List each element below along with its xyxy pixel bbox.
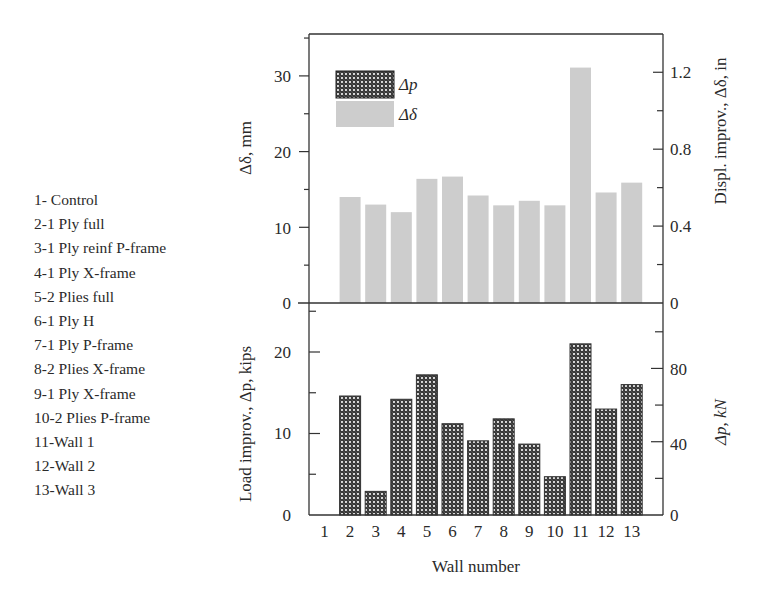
bottom-right-tick: 80 [670, 360, 687, 379]
load-bar [596, 409, 617, 515]
legend-label-load: Δp [398, 75, 417, 94]
x-tick-label: 1 [320, 522, 329, 541]
load-bar [519, 444, 540, 515]
bottom-panel-bars [340, 344, 643, 515]
bottom-right-tick: 0 [670, 506, 679, 525]
x-tick-label: 12 [598, 522, 615, 541]
chart-figure: 30 20 10 0 1.2 0.8 0.4 0 20 10 0 80 40 0… [0, 0, 763, 598]
displacement-bar [621, 183, 642, 303]
bottom-left-tick: 20 [274, 343, 291, 362]
x-tick-label: 11 [572, 522, 588, 541]
displacement-bar [544, 205, 565, 303]
x-tick-label: 7 [474, 522, 483, 541]
bottom-left-tick: 10 [274, 424, 291, 443]
x-tick-labels: 12345678910111213 [320, 522, 640, 541]
load-bar [468, 441, 489, 515]
displacement-bar [519, 201, 540, 303]
load-bar [391, 399, 412, 515]
top-left-tick: 0 [283, 294, 292, 313]
load-bar [442, 424, 463, 515]
top-right-tick: 0.4 [670, 217, 692, 236]
displacement-bar [493, 205, 514, 303]
load-bar [416, 375, 437, 515]
displacement-bar [365, 205, 386, 303]
top-right-tick: 0.8 [670, 140, 691, 159]
displacement-bar [468, 196, 489, 303]
displacement-bar [340, 197, 361, 303]
x-tick-label: 8 [499, 522, 508, 541]
x-tick-label: 3 [371, 522, 380, 541]
displacement-bar [391, 212, 412, 303]
bottom-left-tick: 0 [283, 506, 292, 525]
top-left-tick: 20 [274, 143, 291, 162]
load-bar [340, 396, 361, 515]
top-right-axis-title: Displ. improv., Δδ, in [711, 57, 730, 204]
x-tick-label: 10 [546, 522, 563, 541]
x-tick-label: 6 [448, 522, 457, 541]
load-bar [365, 491, 386, 515]
legend-swatch-load [336, 71, 394, 98]
displacement-bar [442, 177, 463, 303]
top-right-tick: 0 [670, 294, 679, 313]
legend-swatch-displacement [336, 101, 394, 127]
top-left-tick: 10 [274, 219, 291, 238]
top-left-axis-title: Δδ, mm [236, 121, 255, 175]
displacement-bar [570, 68, 591, 303]
legend-label-displacement: Δδ [398, 105, 418, 124]
load-bar [621, 385, 642, 515]
load-bar [493, 419, 514, 515]
load-bar [570, 344, 591, 515]
bottom-right-axis-title: Δp, kN [711, 397, 730, 446]
chart-legend: Δp Δδ [336, 71, 418, 127]
x-tick-label: 4 [397, 522, 406, 541]
displacement-bar [596, 192, 617, 303]
top-right-tick: 1.2 [670, 63, 691, 82]
bottom-left-axis-title: Load improv., Δp, kips [236, 346, 255, 502]
x-tick-label: 13 [623, 522, 640, 541]
x-axis-title: Wall number [432, 557, 520, 576]
top-left-tick: 30 [274, 67, 291, 86]
x-tick-label: 5 [423, 522, 432, 541]
x-tick-label: 2 [346, 522, 355, 541]
bottom-right-tick: 40 [670, 435, 687, 454]
displacement-bar [416, 179, 437, 303]
x-tick-label: 9 [525, 522, 534, 541]
load-bar [544, 477, 565, 515]
